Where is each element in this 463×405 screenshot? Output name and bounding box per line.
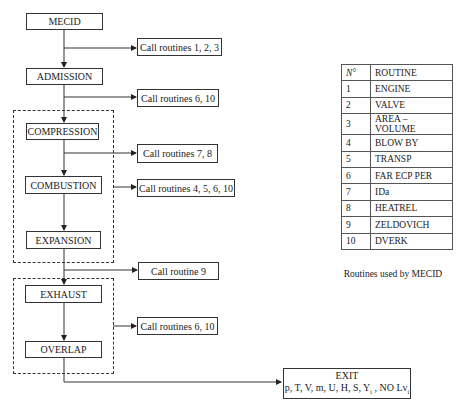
row-number: 1 bbox=[342, 81, 371, 97]
row-routine: IDa bbox=[371, 184, 453, 200]
call-routines-6-10-admission: Call routines 6, 10 bbox=[137, 89, 219, 107]
table-row: 1ENGINE bbox=[342, 81, 453, 97]
header-routine: ROUTINE bbox=[371, 65, 453, 81]
row-routine: BLOW BY bbox=[371, 135, 453, 151]
row-routine: VALVE bbox=[371, 97, 453, 113]
table-row: 8HEATREL bbox=[342, 200, 453, 216]
table-row: 7IDa bbox=[342, 184, 453, 200]
row-routine: ENGINE bbox=[371, 81, 453, 97]
row-number: 10 bbox=[342, 233, 371, 249]
table-row: 6FAR ECP PER bbox=[342, 167, 453, 183]
call-routines-6-10-exhaust: Call routines 6, 10 bbox=[137, 317, 218, 335]
row-number: 4 bbox=[342, 135, 371, 151]
table-row: 5TRANSP bbox=[342, 151, 453, 167]
node-exhaust: EXHAUST bbox=[25, 285, 102, 303]
routines-table: N° ROUTINE 1ENGINE 2VALVE 3AREA – VOLUME… bbox=[341, 64, 453, 250]
row-routine: AREA – VOLUME bbox=[371, 114, 453, 135]
call-routines-7-8: Call routines 7, 8 bbox=[137, 144, 218, 163]
row-routine: ZELDOVICH bbox=[371, 217, 453, 233]
node-combustion: COMBUSTION bbox=[25, 176, 102, 194]
row-number: 7 bbox=[342, 184, 371, 200]
table-header-row: N° ROUTINE bbox=[342, 65, 453, 81]
table-row: 2VALVE bbox=[342, 97, 453, 113]
row-routine: TRANSP bbox=[371, 151, 453, 167]
row-routine: FAR ECP PER bbox=[371, 167, 453, 183]
exit-title: EXIT bbox=[336, 370, 359, 382]
row-routine: DVERK bbox=[371, 233, 453, 249]
table-row: 4BLOW BY bbox=[342, 135, 453, 151]
node-expansion: EXPANSION bbox=[26, 231, 101, 249]
row-number: 8 bbox=[342, 200, 371, 216]
exit-variables: p, T, V, m, U, H, S, Yi , NO Lvi bbox=[285, 382, 409, 398]
node-overlap: OVERLAP bbox=[25, 341, 102, 358]
row-routine: HEATREL bbox=[371, 200, 453, 216]
call-routines-1-2-3: Call routines 1, 2, 3 bbox=[137, 38, 222, 56]
row-number: 9 bbox=[342, 217, 371, 233]
node-admission: ADMISSION bbox=[26, 68, 103, 85]
node-mecid: MECID bbox=[26, 13, 103, 30]
table-row: 3AREA – VOLUME bbox=[342, 114, 453, 135]
row-number: 3 bbox=[342, 114, 371, 135]
row-number: 2 bbox=[342, 97, 371, 113]
row-number: 5 bbox=[342, 151, 371, 167]
call-routine-9: Call routine 9 bbox=[138, 262, 219, 280]
node-compression: COMPRESSION bbox=[26, 123, 99, 140]
header-number: N° bbox=[342, 65, 371, 81]
table-caption: Routines used by MECID bbox=[330, 269, 456, 279]
table-row: 10DVERK bbox=[342, 233, 453, 249]
row-number: 6 bbox=[342, 167, 371, 183]
table-row: 9ZELDOVICH bbox=[342, 217, 453, 233]
call-routines-4-5-6-10: Call routines 4, 5, 6, 10 bbox=[137, 179, 235, 197]
exit-box: EXIT p, T, V, m, U, H, S, Yi , NO Lvi bbox=[283, 368, 411, 399]
